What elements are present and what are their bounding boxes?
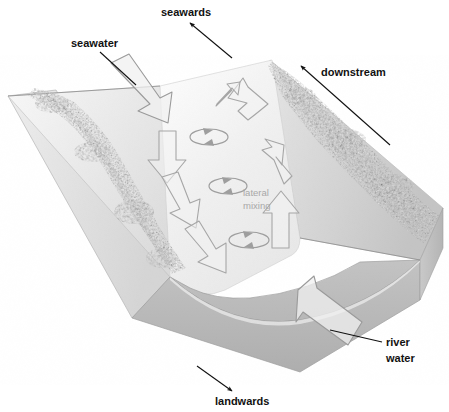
landwards-indicator: landwards bbox=[197, 366, 269, 407]
seawater-label: seawater bbox=[71, 37, 119, 49]
estuary-block-diagram: lateral mixing seawards seawater downstr… bbox=[0, 0, 449, 412]
diagram-page: lateral mixing seawards seawater downstr… bbox=[0, 0, 449, 412]
landwards-label: landwards bbox=[215, 395, 269, 407]
seawards-label: seawards bbox=[161, 6, 211, 18]
landwards-arrow-line bbox=[197, 366, 232, 391]
seawards-indicator: seawards bbox=[161, 6, 232, 58]
estuary-block bbox=[0, 55, 449, 385]
downstream-label: downstream bbox=[321, 66, 386, 78]
river-water-label-line2: water bbox=[385, 352, 415, 364]
lateral-mixing-label-line2: mixing bbox=[243, 200, 270, 211]
seawards-arrow-line bbox=[190, 23, 232, 58]
lateral-mixing-label-line1: lateral bbox=[243, 187, 269, 198]
river-water-label-line1: river bbox=[386, 336, 411, 348]
